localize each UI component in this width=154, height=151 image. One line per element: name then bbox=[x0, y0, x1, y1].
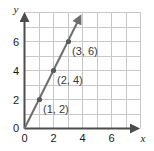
annotation-point-3-6: (3, 6) bbox=[72, 45, 98, 57]
y-tick-label-6: 6 bbox=[13, 36, 19, 48]
data-point-2-4 bbox=[51, 68, 56, 73]
y-axis-label: y bbox=[13, 3, 19, 15]
x-tick-label-0: 0 bbox=[21, 132, 27, 144]
data-point-3-6 bbox=[66, 39, 71, 44]
y-tick-label-0: 0 bbox=[13, 122, 19, 134]
x-tick-label-2: 2 bbox=[50, 132, 56, 144]
x-tick-label-6: 6 bbox=[108, 132, 114, 144]
x-tick-label-4: 4 bbox=[79, 132, 85, 144]
y-tick-label-2: 2 bbox=[13, 94, 19, 106]
coordinate-plane-chart: 0 2 4 6 0 2 4 6 y x (1, 2) (2, 4) (3, 6) bbox=[0, 0, 154, 151]
chart-canvas: 0 2 4 6 0 2 4 6 y x (1, 2) (2, 4) (3, 6) bbox=[0, 0, 154, 151]
y-tick-label-4: 4 bbox=[13, 65, 19, 77]
x-axis-label: x bbox=[140, 132, 146, 144]
annotation-point-1-2: (1, 2) bbox=[43, 103, 69, 115]
data-point-1-2 bbox=[37, 97, 42, 102]
annotation-point-2-4: (2, 4) bbox=[57, 74, 83, 86]
